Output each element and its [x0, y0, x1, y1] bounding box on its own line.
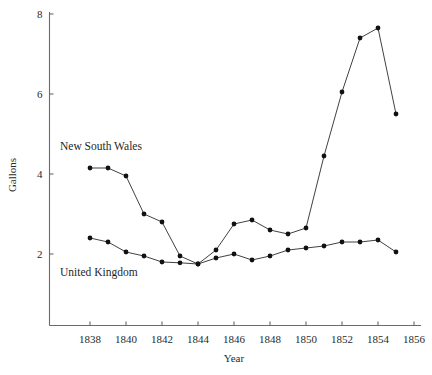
x-tick-label: 1846: [223, 333, 246, 345]
data-point-marker: [178, 260, 183, 265]
series-line: [90, 238, 396, 264]
data-point-marker: [232, 252, 237, 257]
series-united-kingdom: [88, 236, 399, 267]
x-tick-label: 1848: [259, 333, 282, 345]
data-point-marker: [214, 248, 219, 253]
data-point-marker: [142, 212, 147, 217]
data-point-marker: [322, 244, 327, 249]
data-point-marker: [160, 220, 165, 225]
y-tick-label: 6: [37, 88, 43, 100]
data-point-marker: [88, 166, 93, 171]
line-chart: 2468183818401842184418461848185018521854…: [0, 0, 432, 375]
data-point-marker: [376, 238, 381, 243]
data-point-marker: [394, 112, 399, 117]
x-tick-label: 1856: [403, 333, 426, 345]
x-tick-label: 1852: [331, 333, 353, 345]
data-point-marker: [304, 226, 309, 231]
data-point-marker: [304, 246, 309, 251]
data-point-marker: [250, 258, 255, 263]
series-annotation-united-kingdom: United Kingdom: [60, 266, 138, 279]
x-axis-title: Year: [224, 352, 245, 364]
data-point-marker: [106, 240, 111, 245]
chart-container: 2468183818401842184418461848185018521854…: [0, 0, 432, 375]
data-point-marker: [358, 240, 363, 245]
data-point-marker: [340, 90, 345, 95]
x-tick-label: 1842: [151, 333, 173, 345]
data-point-marker: [250, 218, 255, 223]
x-tick-label: 1844: [187, 333, 210, 345]
data-point-marker: [268, 254, 273, 259]
data-point-marker: [358, 36, 363, 41]
x-tick-label: 1854: [367, 333, 390, 345]
data-point-marker: [88, 236, 93, 241]
data-point-marker: [214, 256, 219, 261]
series-annotation-new-south-wales: New South Wales: [60, 140, 142, 152]
data-point-marker: [268, 228, 273, 233]
x-tick-label: 1840: [115, 333, 138, 345]
data-point-marker: [124, 250, 129, 255]
data-point-marker: [394, 250, 399, 255]
data-point-marker: [196, 262, 201, 267]
data-point-marker: [340, 240, 345, 245]
y-tick-label: 8: [37, 8, 43, 20]
data-point-marker: [106, 166, 111, 171]
data-point-marker: [160, 260, 165, 265]
y-tick-label: 4: [37, 168, 43, 180]
x-tick-label: 1838: [79, 333, 102, 345]
data-point-marker: [232, 222, 237, 227]
y-axis-title: Gallons: [6, 158, 18, 192]
data-point-marker: [322, 154, 327, 159]
data-point-marker: [142, 254, 147, 259]
data-point-marker: [124, 174, 129, 179]
data-point-marker: [286, 232, 291, 237]
data-point-marker: [376, 26, 381, 31]
data-point-marker: [286, 248, 291, 253]
data-point-marker: [178, 254, 183, 259]
y-tick-label: 2: [37, 248, 43, 260]
x-tick-label: 1850: [295, 333, 318, 345]
